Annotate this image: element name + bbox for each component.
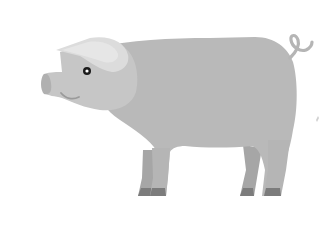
pig-tail <box>290 36 312 59</box>
pig-illustration <box>0 0 329 229</box>
hoof-icon <box>150 188 166 196</box>
speck <box>316 116 319 122</box>
illustration-canvas: Flat illustration of a gray pig standing… <box>0 0 329 229</box>
hoof-icon <box>264 188 281 196</box>
far-back-leg <box>240 145 262 196</box>
eye-icon <box>83 67 91 75</box>
